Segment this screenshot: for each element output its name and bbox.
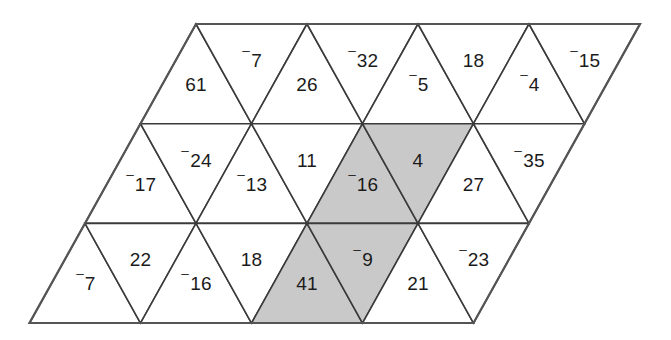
negative-sign-icon: ⁻ (75, 267, 85, 288)
negative-sign-icon: ⁻ (180, 267, 190, 288)
negative-sign-icon: ⁻ (347, 167, 357, 188)
cell-value-r3c6: 21 (407, 273, 429, 294)
negative-sign-icon: ⁻ (408, 67, 418, 88)
cell-value-r1c0: 61 (185, 74, 207, 95)
negative-sign-icon: ⁻ (519, 67, 529, 88)
negative-sign-icon: ⁻ (241, 43, 251, 64)
cell-value-r3c1: 22 (130, 249, 152, 270)
cell-value-r2c3: 11 (297, 150, 317, 171)
negative-sign-icon: ⁻ (180, 143, 190, 164)
triangle-grid-svg: 61⁻726⁻32⁻518⁻4⁻15⁻17⁻24⁻1311⁻16427⁻35⁻7… (0, 0, 671, 340)
triangular-grid-figure: 61⁻726⁻32⁻518⁻4⁻15⁻17⁻24⁻1311⁻16427⁻35⁻7… (0, 0, 671, 340)
negative-sign-icon: ⁻ (125, 167, 135, 188)
negative-sign-icon: ⁻ (352, 243, 362, 264)
negative-sign-icon: ⁻ (458, 243, 468, 264)
negative-sign-icon: ⁻ (569, 43, 579, 64)
negative-sign-icon: ⁻ (347, 43, 357, 64)
negative-sign-icon: ⁻ (236, 167, 246, 188)
cell-value-r1c5: 18 (463, 50, 485, 71)
cell-value-r1c2: 26 (296, 74, 318, 95)
cell-value-r3c3: 18 (241, 249, 263, 270)
cell-value-r3c4: 41 (296, 273, 318, 294)
cell-value-r2c5: 4 (413, 150, 424, 171)
cell-value-r2c6: 27 (463, 174, 485, 195)
triangle-cells-group (30, 24, 641, 323)
negative-sign-icon: ⁻ (513, 143, 523, 164)
